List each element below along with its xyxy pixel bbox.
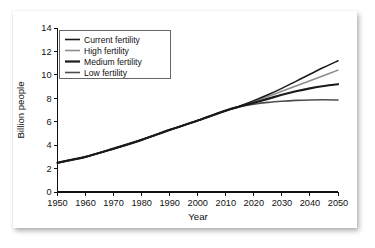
y-tick-label: 14 <box>41 23 51 33</box>
figure-card: 02468101214 1950196019701980199020002010… <box>13 11 357 228</box>
y-tick-label: 8 <box>46 94 51 104</box>
x-axis-title: Year <box>188 211 208 222</box>
legend-label-high-fertility: High fertility <box>84 46 130 56</box>
population-projection-line-chart: 02468101214 1950196019701980199020002010… <box>13 11 357 228</box>
legend-label-low-fertility: Low fertility <box>84 68 128 78</box>
x-tick-label: 2040 <box>300 198 320 208</box>
legend-label-medium-fertility: Medium fertility <box>84 57 142 67</box>
x-axis-ticks: 1950196019701980199020002010202020302040… <box>47 192 348 208</box>
x-tick-label: 1960 <box>75 198 95 208</box>
x-tick-label: 1970 <box>103 198 123 208</box>
legend-label-current-fertility: Current fertility <box>84 35 141 45</box>
x-tick-label: 2030 <box>272 198 292 208</box>
series-line-medium-fertility <box>58 84 339 162</box>
chart-legend: Current fertilityHigh fertilityMedium fe… <box>59 30 170 78</box>
x-tick-label: 2010 <box>216 198 236 208</box>
y-tick-label: 2 <box>46 164 51 174</box>
x-tick-label: 1950 <box>47 198 67 208</box>
y-tick-label: 10 <box>41 70 51 80</box>
x-tick-label: 2020 <box>244 198 264 208</box>
x-tick-label: 1990 <box>159 198 179 208</box>
x-tick-label: 1980 <box>131 198 151 208</box>
series-line-high-fertility <box>58 70 339 163</box>
y-axis-title: Billion people <box>15 81 26 138</box>
x-tick-label: 2050 <box>328 198 348 208</box>
x-tick-label: 2000 <box>188 198 208 208</box>
y-tick-label: 12 <box>41 47 51 57</box>
y-tick-label: 4 <box>46 140 51 150</box>
screenshot-root: 02468101214 1950196019701980199020002010… <box>0 0 375 248</box>
y-axis-ticks: 02468101214 <box>41 23 57 197</box>
y-tick-label: 0 <box>46 187 51 197</box>
y-tick-label: 6 <box>46 117 51 127</box>
